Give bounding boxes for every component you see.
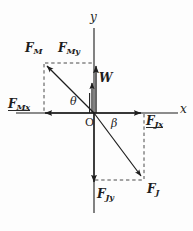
angle-theta-label: θ (70, 96, 77, 107)
force-label-fjy: FJy (97, 188, 114, 200)
force-label-w: W (99, 72, 112, 84)
y-axis-label: y (90, 11, 97, 23)
vector-fj (94, 113, 141, 176)
vector-w (90, 83, 92, 113)
force-label-fmx: FMx (8, 98, 30, 111)
angle-beta-label: β (111, 118, 117, 129)
force-label-fmy: FMy (58, 42, 80, 54)
force-diagram: y x O θ β FM FMx FMy FJ FJx FJy W (0, 0, 193, 231)
force-label-fj: FJ (147, 183, 159, 195)
force-label-fm: FM (25, 42, 42, 54)
force-label-fjx: FJx (146, 115, 163, 128)
x-axis-label: x (180, 103, 187, 115)
origin-label: O (85, 117, 94, 128)
